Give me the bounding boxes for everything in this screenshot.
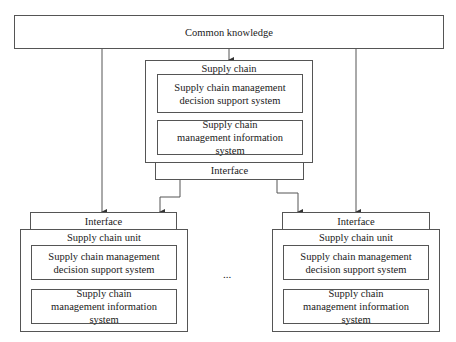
right-unit-decision-system-label: Supply chain management decision support… (286, 250, 426, 276)
supply-chain-info-system-label: Supply chain management information syst… (176, 118, 284, 157)
supply-chain-box: Supply chain Supply chain management dec… (145, 60, 313, 163)
more-units-ellipsis: ... (223, 268, 231, 280)
left-unit-decision-system-label: Supply chain management decision support… (34, 250, 174, 276)
right-unit-interface-label: Interface (337, 215, 374, 228)
supply-chain-decision-system-box: Supply chain management decision support… (157, 74, 303, 113)
supply-chain-info-system-box: Supply chain management information syst… (157, 120, 303, 155)
left-unit-interface-label: Interface (85, 215, 122, 228)
right-unit-title: Supply chain unit (273, 231, 439, 244)
left-unit-info-system-label: Supply chain management information syst… (50, 287, 158, 326)
right-unit-decision-system-box: Supply chain management decision support… (283, 245, 429, 280)
supply-chain-decision-system-label: Supply chain management decision support… (160, 81, 300, 107)
right-supply-chain-unit-box: Supply chain unit Supply chain managemen… (272, 229, 440, 332)
common-knowledge-label: Common knowledge (185, 26, 273, 39)
left-supply-chain-unit-box: Supply chain unit Supply chain managemen… (20, 229, 188, 332)
supply-chain-interface-label: Interface (211, 164, 248, 177)
left-unit-info-system-box: Supply chain management information syst… (31, 289, 177, 324)
right-unit-info-system-label: Supply chain management information syst… (302, 287, 410, 326)
left-unit-decision-system-box: Supply chain management decision support… (31, 245, 177, 280)
right-unit-info-system-box: Supply chain management information syst… (283, 289, 429, 324)
common-knowledge-box: Common knowledge (14, 15, 444, 49)
left-unit-title: Supply chain unit (21, 231, 187, 244)
supply-chain-interface-box: Interface (155, 161, 304, 180)
